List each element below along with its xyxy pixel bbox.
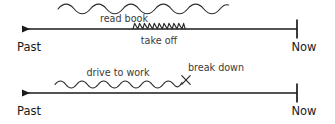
timeline-bottom-now-label: Now [291, 104, 316, 118]
break-down-label: break down [188, 62, 244, 73]
timeline-top-now-label: Now [291, 40, 316, 54]
diagram-canvas: read book take off Past Now drive to wor… [0, 0, 335, 124]
take-off-label: take off [141, 35, 178, 46]
drive-to-work-label: drive to work [86, 67, 150, 78]
timeline-top: read book take off Past Now [17, 4, 317, 54]
timeline-top-past-label: Past [17, 40, 41, 54]
read-book-label: read book [100, 13, 148, 24]
timeline-bottom-past-label: Past [17, 104, 41, 118]
drive-to-work-squiggle [55, 81, 182, 88]
timeline-bottom: drive to work break down Past Now [17, 62, 317, 118]
break-down-cross-icon [182, 76, 190, 85]
timeline-diagram: read book take off Past Now drive to wor… [0, 0, 335, 124]
take-off-spring [133, 23, 185, 29]
